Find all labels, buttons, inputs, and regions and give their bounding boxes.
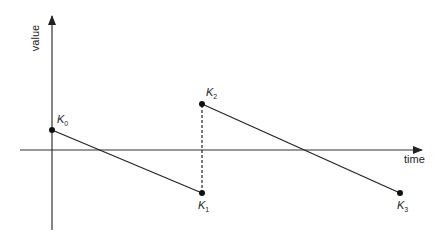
segment-k2-k3	[202, 104, 400, 193]
point-k2	[199, 101, 205, 107]
label-k1: K1	[198, 199, 209, 213]
point-k0	[49, 127, 55, 133]
point-k3	[397, 190, 403, 196]
y-axis-label: value	[29, 25, 41, 51]
point-k1	[199, 190, 205, 196]
label-k3: K3	[397, 199, 408, 213]
label-k0: K0	[57, 113, 68, 127]
label-k2: K2	[206, 86, 217, 100]
segment-k0-k1	[52, 130, 202, 193]
x-axis-label: time	[404, 153, 425, 165]
